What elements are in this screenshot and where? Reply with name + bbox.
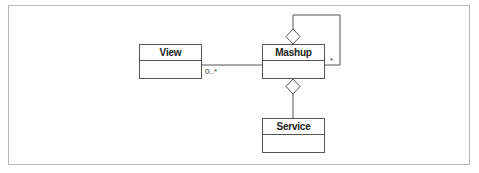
class-name: Mashup	[263, 45, 324, 61]
class-name: View	[140, 45, 201, 61]
class-name: Service	[263, 119, 324, 135]
class-service: Service	[262, 118, 325, 153]
class-mashup: Mashup	[262, 44, 325, 79]
multiplicity-label-self: *	[330, 56, 333, 65]
multiplicity-label-view: 0..*	[205, 67, 217, 76]
aggregation-diamond-icon	[286, 79, 300, 94]
class-view: View	[139, 44, 202, 79]
aggregation-diamond-icon	[286, 29, 300, 44]
connectors	[0, 0, 479, 173]
